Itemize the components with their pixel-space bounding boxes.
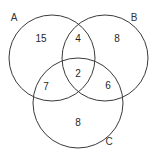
venn-circle-c	[33, 58, 123, 148]
venn-circles-canvas	[0, 0, 157, 162]
venn-diagram-figure: A B C 15 4 8 7 2 6 8	[0, 0, 157, 162]
